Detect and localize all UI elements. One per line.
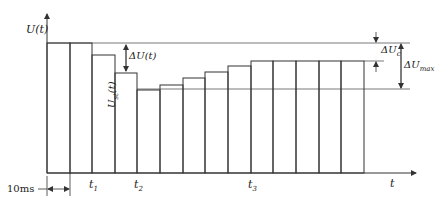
step-bar <box>251 61 273 173</box>
x-axis-label: t <box>390 178 394 189</box>
delta-umax-sub: max <box>420 65 435 73</box>
t1-sub: 1 <box>93 185 97 193</box>
delta-u-t-label: ΔU(t) <box>129 51 156 61</box>
step-bar <box>205 72 228 173</box>
delta-uc-label: ΔUc <box>381 45 401 58</box>
waveform-diagram <box>0 0 439 202</box>
step-bar <box>341 61 364 173</box>
step-bar <box>47 43 70 173</box>
t2-label: t2 <box>134 179 143 193</box>
step-bar <box>183 78 205 173</box>
step-bars <box>47 43 364 173</box>
delta-umax-label: ΔUmax <box>404 60 434 73</box>
t3-label: t3 <box>248 179 257 193</box>
y-axis-label: U(t) <box>26 24 48 35</box>
step-bar <box>228 66 251 173</box>
step-bar <box>160 85 183 173</box>
interval-label: 10ms <box>7 184 34 194</box>
delta-uc-sub: c <box>397 50 401 58</box>
u-st-sub: st <box>112 93 120 99</box>
step-bar <box>319 61 341 173</box>
t1-label: t1 <box>89 179 98 193</box>
u-st-suffix: (t) <box>106 81 117 93</box>
u-st-main: U <box>106 100 117 108</box>
delta-uc-main: ΔU <box>381 44 397 55</box>
delta-umax-main: ΔU <box>404 59 420 70</box>
t3-sub: 3 <box>252 185 256 193</box>
step-bar <box>92 55 115 173</box>
u-st-label: Ust(t) <box>107 81 120 108</box>
step-bar <box>273 61 296 173</box>
t2-sub: 2 <box>138 185 142 193</box>
step-bar <box>137 90 160 173</box>
step-bar <box>296 61 319 173</box>
step-bar <box>70 43 92 173</box>
